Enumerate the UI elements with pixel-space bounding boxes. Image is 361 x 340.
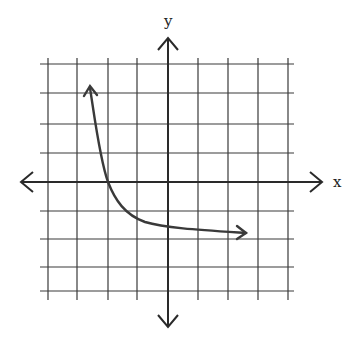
x-axis-label: x [333,173,342,191]
x-axis [21,172,322,192]
graph: x y [0,0,361,340]
y-axis-label: y [163,12,173,30]
